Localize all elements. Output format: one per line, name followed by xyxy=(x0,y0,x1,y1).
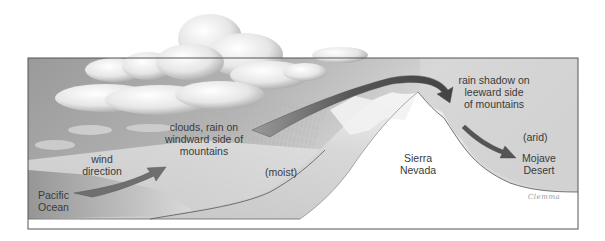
label-line: mountains xyxy=(158,145,250,157)
label-line: Pacific xyxy=(38,189,69,201)
label-windward: clouds, rain on windward side of mountai… xyxy=(158,121,250,157)
label-line: clouds, rain on xyxy=(158,121,250,133)
label-line: Nevada xyxy=(393,164,443,176)
label-line: of mountains xyxy=(453,98,535,110)
rain-shadow-diagram xyxy=(0,0,605,241)
label-arid: (arid) xyxy=(523,131,548,143)
label-line: rain shadow on xyxy=(453,74,535,86)
label-line: Sierra xyxy=(393,152,443,164)
label-line: wind xyxy=(77,153,127,165)
label-line: windward side of xyxy=(158,133,250,145)
label-line: Ocean xyxy=(38,201,69,213)
artist-signature: Clemma xyxy=(528,193,560,201)
label-line: direction xyxy=(77,165,127,177)
label-mojave-desert: Mojave Desert xyxy=(517,152,561,176)
label-sierra-nevada: Sierra Nevada xyxy=(393,152,443,176)
label-wind-direction: wind direction xyxy=(77,153,127,177)
label-line: leeward side xyxy=(453,86,535,98)
label-pacific-ocean: Pacific Ocean xyxy=(38,189,69,213)
label-line: Mojave xyxy=(517,152,561,164)
label-line: Desert xyxy=(517,164,561,176)
label-leeward: rain shadow on leeward side of mountains xyxy=(453,74,535,110)
label-moist: (moist) xyxy=(265,166,297,178)
